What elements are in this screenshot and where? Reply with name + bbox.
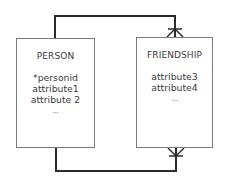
- entity-title: PERSON: [17, 51, 94, 61]
- entity-title: FRIENDSHIP: [137, 50, 212, 60]
- attribute-item: attribute1: [17, 83, 94, 94]
- attribute-item: attribute 2: [17, 94, 94, 105]
- friendship-entity[interactable]: FRIENDSHIP attribute3 attribute4 ...: [136, 37, 213, 148]
- bottom-relationship-line: [56, 148, 176, 171]
- attribute-item: *personid: [17, 72, 94, 83]
- person-entity[interactable]: PERSON *personid attribute1 attribute 2 …: [16, 38, 95, 148]
- top-relationship-line: [55, 16, 175, 38]
- attribute-list: *personid attribute1 attribute 2 ...: [17, 72, 94, 117]
- attribute-item: attribute3: [137, 71, 212, 82]
- attribute-ellipsis: ...: [17, 105, 94, 117]
- attribute-list: attribute3 attribute4 ...: [137, 71, 212, 105]
- attribute-ellipsis: ...: [137, 93, 212, 105]
- attribute-item: attribute4: [137, 82, 212, 93]
